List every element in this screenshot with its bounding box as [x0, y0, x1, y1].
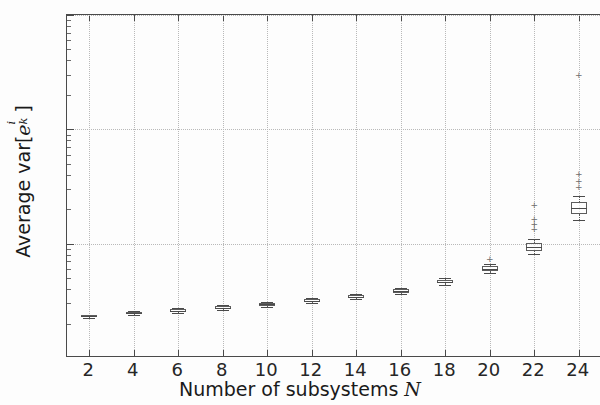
x-axis-title-variable: N [404, 378, 421, 400]
y-axis-title-subscript: k [15, 117, 29, 124]
figure: +++++++++ 100101102103 24681012141618202… [0, 0, 600, 405]
boxplot-whisker-cap [573, 196, 585, 197]
x-axis-tick-label: 6 [172, 361, 183, 379]
plot-area: +++++++++ [66, 14, 600, 357]
x-axis-tick-label: 22 [522, 361, 545, 379]
x-axis-title: Number of subsystems N [0, 378, 600, 400]
boxplot-group: ++++ [67, 15, 600, 356]
boxplot-outlier: + [575, 70, 583, 79]
x-axis-tick-label: 18 [433, 361, 456, 379]
x-axis-tick-label: 2 [83, 361, 94, 379]
boxplot-outlier: + [575, 177, 583, 186]
x-axis-tick-label: 16 [388, 361, 411, 379]
x-axis-tick-label: 14 [344, 361, 367, 379]
x-axis-tick-label: 24 [566, 361, 589, 379]
x-axis-title-text: Number of subsystems [179, 378, 398, 400]
y-axis-title: Average var[eik] [11, 12, 34, 352]
boxplot-outlier: + [575, 169, 583, 178]
y-axis-title-prefix: Average var[ [12, 136, 34, 258]
boxplot-whisker-cap [573, 220, 585, 221]
y-axis-title-variable: e [12, 124, 34, 135]
plot-inner: +++++++++ [67, 15, 600, 356]
boxplot-median [571, 208, 587, 209]
x-axis-tick-label: 8 [216, 361, 227, 379]
y-axis-title-suffix: ] [12, 105, 34, 112]
x-axis-tick-label: 20 [477, 361, 500, 379]
y-axis-title-indices: ik [11, 113, 30, 125]
x-axis-tick-label: 12 [299, 361, 322, 379]
x-axis-tick-label: 4 [127, 361, 138, 379]
x-axis-tick-label: 10 [255, 361, 278, 379]
